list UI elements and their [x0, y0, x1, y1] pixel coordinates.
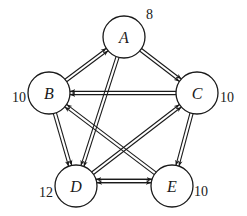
node-weight-label: 10: [12, 90, 26, 105]
edge-c-to-e: [176, 113, 193, 166]
node-label: B: [44, 85, 54, 102]
node-weight-label: 10: [220, 90, 234, 105]
edge-arrow-line: [179, 114, 193, 167]
edge-arrow-line: [67, 104, 157, 172]
node-label: A: [118, 29, 129, 46]
edge-d-to-c: [92, 105, 182, 175]
node-c: C10: [176, 72, 234, 114]
edge-arrow-line: [65, 48, 107, 79]
node-weight-label: 10: [194, 184, 208, 199]
edge-arrow-line: [84, 57, 119, 166]
nodes-layer: A8B10C10D12E10: [12, 7, 234, 208]
edge-arrow-line: [140, 51, 180, 82]
node-label: D: [69, 178, 82, 195]
edge-arrow-line: [142, 49, 182, 80]
edge-arrow-line: [65, 107, 155, 175]
directed-graph-diagram: A8B10C10D12E10: [0, 0, 247, 216]
node-b: B10: [12, 72, 70, 114]
node-d: D12: [39, 165, 97, 207]
edge-arrow-line: [53, 114, 68, 167]
edge-b-to-a: [65, 48, 108, 82]
node-weight-label: 8: [146, 7, 153, 22]
node-label: C: [192, 85, 203, 102]
node-e: E10: [151, 165, 208, 207]
edge-arrow-line: [94, 107, 182, 175]
edge-arrow-line: [56, 113, 71, 166]
node-weight-label: 12: [39, 185, 53, 200]
node-a: A8: [103, 7, 153, 59]
edges-layer: [53, 48, 193, 182]
edge-arrow-line: [67, 51, 109, 82]
edge-arrow-line: [92, 105, 180, 173]
edge-c-to-b: [70, 91, 176, 94]
node-label: E: [166, 178, 177, 195]
edge-e-to-b: [65, 104, 157, 174]
edge-arrow-line: [81, 56, 116, 165]
edge-arrow-line: [176, 113, 190, 166]
edge-b-to-d: [53, 113, 71, 167]
edge-a-to-d: [81, 56, 119, 166]
edge-e-to-d: [96, 179, 152, 182]
edge-a-to-c: [140, 49, 182, 82]
